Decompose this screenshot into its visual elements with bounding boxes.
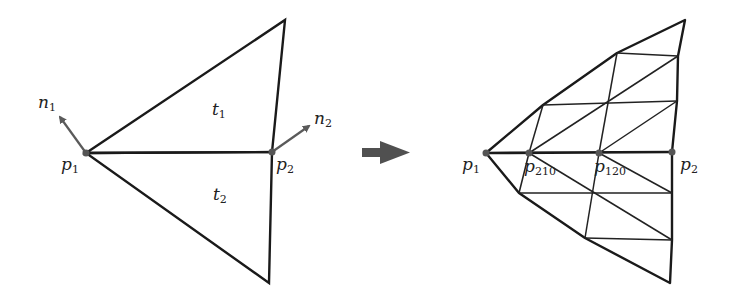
- triangle-t2: [86, 152, 272, 283]
- left-diagram: n1 n2 p1 p2 t1 t2: [38, 20, 332, 283]
- label-p1-right: p1: [462, 154, 480, 176]
- triangle-t1: [86, 20, 285, 153]
- upper-mesh: [529, 53, 678, 153]
- label-t2: t2: [213, 184, 227, 206]
- vertex-p1-right: [483, 150, 490, 157]
- shared-edge: [486, 152, 672, 153]
- vertex-p1: [83, 150, 90, 157]
- label-n1: n1: [38, 92, 56, 114]
- vertex-p2-right: [669, 149, 676, 156]
- outer-boundary-upper: [486, 20, 685, 153]
- vertex-p2: [269, 149, 276, 156]
- label-p2-right: p2: [680, 154, 698, 176]
- label-n2: n2: [314, 108, 332, 130]
- label-t1: t1: [212, 99, 226, 121]
- right-arrow-icon: [362, 141, 410, 164]
- normal-n1-icon: [60, 117, 86, 153]
- outer-boundary-lower: [486, 152, 672, 283]
- diagram-canvas: n1 n2 p1 p2 t1 t2: [0, 0, 736, 305]
- normal-n2-icon: [272, 126, 309, 152]
- label-p2-left: p2: [276, 154, 294, 176]
- right-diagram: p1 p210 p120 p2: [462, 20, 698, 283]
- label-p1-left: p1: [61, 154, 79, 176]
